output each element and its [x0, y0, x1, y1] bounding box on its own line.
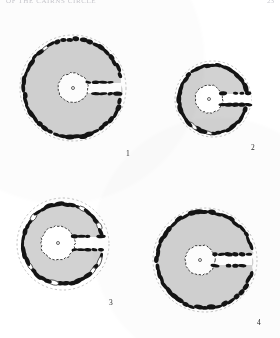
- scanned-page: OF THE CAIRNS CIRCLE 23 1234: [0, 0, 280, 338]
- figure-caption-4: 4: [251, 318, 267, 327]
- plan-drawing: [139, 194, 271, 326]
- figure-caption-1: 1: [120, 149, 136, 158]
- figure-caption-3: 3: [103, 298, 119, 307]
- running-header: OF THE CAIRNS CIRCLE 23: [6, 0, 274, 9]
- figure-caption-2: 2: [245, 143, 261, 152]
- plan-drawing: [161, 47, 265, 151]
- tomb-plan-2: [161, 47, 265, 151]
- tomb-plan-1: [6, 21, 140, 155]
- folio-number: 23: [267, 0, 274, 5]
- plan-drawing: [6, 21, 140, 155]
- tomb-plan-4: [139, 194, 271, 326]
- tomb-plan-3: [3, 184, 123, 304]
- running-title: OF THE CAIRNS CIRCLE: [6, 0, 96, 5]
- plan-drawing: [3, 184, 123, 304]
